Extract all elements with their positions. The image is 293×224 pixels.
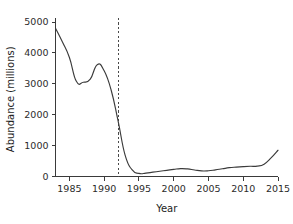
x-axis-title: Year [155, 203, 178, 214]
series-line-abundance [56, 28, 279, 174]
x-tick-label: 1990 [92, 183, 116, 194]
y-tick-label: 2000 [24, 109, 48, 120]
y-tick-label: 4000 [24, 47, 48, 58]
x-tick-label: 2000 [162, 183, 186, 194]
y-tick-label: 0 [42, 171, 48, 182]
y-tick-label: 3000 [24, 78, 48, 89]
x-tick-label: 1985 [57, 183, 81, 194]
line-chart: 0100020003000400050001985199019952000200… [0, 0, 293, 224]
x-tick-label: 2005 [196, 183, 220, 194]
x-tick-label: 2010 [231, 183, 255, 194]
chart-container: 0100020003000400050001985199019952000200… [0, 0, 293, 224]
x-tick-label: 1995 [127, 183, 151, 194]
y-tick-label: 1000 [24, 140, 48, 151]
x-tick-label: 2015 [266, 183, 290, 194]
y-tick-label: 5000 [24, 16, 48, 27]
y-axis-title: Abundance (millions) [5, 46, 16, 152]
